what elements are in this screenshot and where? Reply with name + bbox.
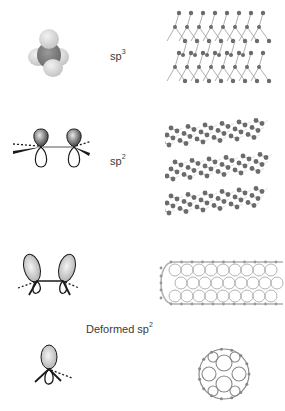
diamond-lattice-structure <box>165 5 280 90</box>
sp2-label: sp2 <box>110 154 126 167</box>
deformed-sp2-label: Deformed sp2 <box>86 322 153 335</box>
sp3-label: sp3 <box>110 49 126 62</box>
pyramidalized-orbital-icon <box>30 340 80 395</box>
fullerene-c60-structure <box>195 345 253 403</box>
sp2-p-orbitals-icon <box>10 125 90 175</box>
graphite-layers-structure <box>165 112 280 217</box>
carbon-nanotube-structure <box>155 258 285 308</box>
sp3-tetrahedral-orbital-icon <box>22 25 77 80</box>
bent-p-orbitals-icon <box>15 250 85 310</box>
